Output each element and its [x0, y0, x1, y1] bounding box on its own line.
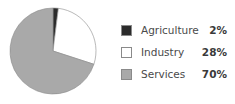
legend-value: 70%	[202, 68, 227, 81]
legend-label: Services	[141, 68, 185, 81]
legend-label: Industry	[141, 46, 184, 59]
services-swatch-icon	[121, 69, 132, 80]
legend-item-agriculture: Agriculture 2%	[121, 24, 229, 46]
industry-swatch-icon	[121, 47, 132, 58]
legend-value: 28%	[202, 46, 227, 59]
legend-label: Agriculture	[141, 24, 199, 37]
legend-item-services: Services 70%	[121, 68, 229, 90]
agriculture-swatch-icon	[121, 25, 132, 36]
legend: Agriculture 2% Industry 28% Services 70%	[121, 24, 229, 90]
legend-item-industry: Industry 28%	[121, 46, 229, 68]
pie-chart	[9, 7, 97, 95]
legend-value: 2%	[209, 24, 227, 37]
